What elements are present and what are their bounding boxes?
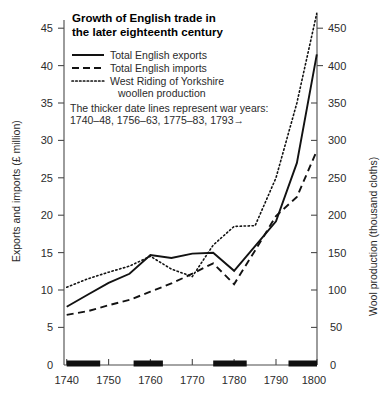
tick-label-x-1800: 1800: [302, 374, 326, 386]
tick-label-right-0: 0: [330, 359, 336, 371]
tick-label-right-150: 150: [328, 247, 346, 259]
tick-label-left-40: 40: [41, 60, 53, 72]
tick-label-x-1760: 1760: [138, 374, 162, 386]
tick-label-x-1780: 1780: [222, 374, 246, 386]
tick-label-x-1770: 1770: [180, 374, 204, 386]
tick-label-left-20: 20: [41, 209, 53, 221]
tick-label-left-35: 35: [41, 97, 53, 109]
y-axis-right-ticks: 450 400 350 300 250 200 150 100 50 0: [311, 22, 346, 371]
tick-label-right-50: 50: [330, 321, 342, 333]
war-bar-1756-63: [134, 361, 163, 367]
tick-label-left-5: 5: [47, 321, 53, 333]
chart-title-line-2: the later eighteenth century: [72, 26, 223, 38]
chart-title: Growth of English trade in the later eig…: [72, 12, 223, 38]
tick-label-x-1790: 1790: [264, 374, 288, 386]
legend-label-exports: Total English exports: [110, 49, 207, 61]
legend-label-wool-line-2: woollen production: [117, 87, 206, 99]
tick-label-x-1740: 1740: [54, 374, 78, 386]
series-line-total-english-imports: [67, 151, 317, 315]
war-bar-1793-1800: [289, 361, 318, 367]
tick-label-right-100: 100: [328, 284, 346, 296]
tick-label-right-450: 450: [328, 22, 346, 34]
chart-legend: Total English exports Total English impo…: [72, 49, 224, 99]
tick-label-left-15: 15: [41, 247, 53, 259]
legend-label-wool-line-1: West Riding of Yorkshire: [110, 75, 224, 87]
tick-label-right-300: 300: [328, 134, 346, 146]
y-axis-right-title: Wool production (thousand cloths): [367, 157, 379, 316]
tick-label-left-10: 10: [41, 284, 53, 296]
legend-label-imports: Total English imports: [110, 62, 207, 74]
tick-label-right-250: 250: [328, 172, 346, 184]
war-bar-1740-48: [67, 361, 101, 367]
war-years-note-line-1: The thicker date lines represent war yea…: [70, 102, 268, 114]
y-axis-left-title: Exports and imports (£ million): [10, 120, 22, 262]
tick-label-x-1750: 1750: [96, 374, 120, 386]
chart-figure: 45 40 35 30 25 20 15 10 5 0 450 400: [0, 0, 385, 401]
y-axis-left-ticks: 45 40 35 30 25 20 15 10 5 0: [41, 22, 64, 371]
trade-growth-line-chart: 45 40 35 30 25 20 15 10 5 0 450 400: [0, 0, 385, 401]
war-bar-1775-83: [213, 361, 247, 367]
tick-label-right-400: 400: [328, 60, 346, 72]
tick-label-left-45: 45: [41, 22, 53, 34]
tick-label-right-350: 350: [328, 97, 346, 109]
tick-label-left-0: 0: [47, 359, 53, 371]
tick-label-right-200: 200: [328, 209, 346, 221]
war-years-note-line-2: 1740–48, 1756–63, 1775–83, 1793→: [70, 114, 244, 126]
chart-title-line-1: Growth of English trade in: [72, 12, 216, 24]
tick-label-left-25: 25: [41, 172, 53, 184]
war-years-annotation: The thicker date lines represent war yea…: [70, 102, 268, 126]
tick-label-left-30: 30: [41, 134, 53, 146]
